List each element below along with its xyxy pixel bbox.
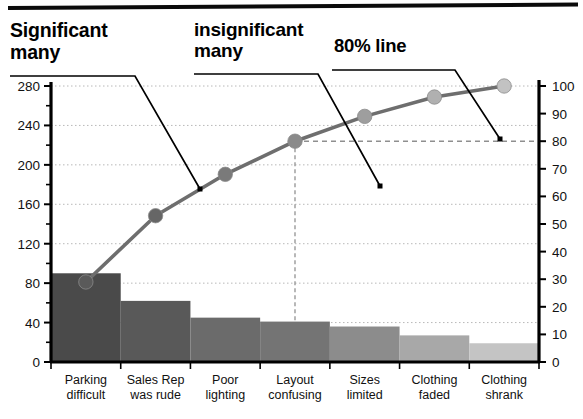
right-axis-tick-label: 40	[552, 245, 567, 260]
right-axis-tick-label: 30	[552, 272, 567, 287]
bar	[190, 318, 260, 362]
data-point-marker	[497, 79, 511, 93]
pareto-chart-figure: Significant many insignificant many 80% …	[0, 0, 583, 419]
bar	[121, 301, 191, 362]
left-axis-tick-labels: 04080120160200240280	[17, 79, 40, 370]
left-axis-tick-label: 160	[17, 197, 40, 212]
right-axis-tick-labels: 0102030405060708090100	[552, 79, 575, 370]
left-axis-tick-label: 120	[17, 237, 40, 252]
category-axis-labels: ParkingdifficultSales Repwas rudePoorlig…	[65, 373, 527, 402]
leader-insignificant-many-endpoint	[378, 184, 383, 189]
left-axis-tick-label: 200	[17, 158, 40, 173]
category-label: Clothing	[481, 373, 527, 387]
left-axis-tick-label: 80	[25, 276, 40, 291]
right-axis-tick-label: 100	[552, 79, 575, 94]
bar	[400, 335, 470, 362]
category-label: Layout	[276, 373, 314, 387]
left-axis-tick-label: 280	[17, 79, 40, 94]
data-point-marker	[288, 134, 302, 148]
category-label: was rude	[129, 388, 181, 402]
data-point-marker	[148, 209, 162, 223]
category-label: Clothing	[411, 373, 457, 387]
leader-significant-many-endpoint	[198, 187, 203, 192]
annotation-leader-lines	[10, 70, 503, 192]
category-label: Poor	[212, 373, 238, 387]
data-point-marker	[427, 90, 441, 104]
right-axis-tick-label: 20	[552, 300, 567, 315]
right-axis-tick-label: 60	[552, 189, 567, 204]
left-axis-tick-label: 240	[17, 118, 40, 133]
category-label: Sales Rep	[127, 373, 185, 387]
right-axis-tick-label: 50	[552, 217, 567, 232]
data-point-marker	[79, 275, 93, 289]
right-axis-tick-label: 10	[552, 327, 567, 342]
right-axis-tick-label: 70	[552, 162, 567, 177]
category-label: faded	[419, 388, 450, 402]
bar	[330, 327, 400, 362]
category-label: confusing	[268, 388, 322, 402]
data-point-marker	[358, 109, 372, 123]
left-axis-tick-label: 40	[25, 316, 40, 331]
category-label: Parking	[65, 373, 107, 387]
right-axis-tick-label: 90	[552, 107, 567, 122]
category-label: limited	[347, 388, 383, 402]
bar	[469, 343, 539, 362]
leader-80-percent	[332, 70, 500, 139]
category-label: lighting	[205, 388, 245, 402]
right-axis-tick-label: 0	[552, 355, 560, 370]
bar	[260, 322, 330, 362]
chart-canvas: 04080120160200240280 0102030405060708090…	[0, 0, 583, 419]
threshold-indicator	[295, 141, 539, 321]
leader-80-percent-endpoint	[498, 137, 503, 142]
category-label: shrank	[485, 388, 523, 402]
category-label: difficult	[67, 388, 106, 402]
category-label: Sizes	[349, 373, 380, 387]
data-point-marker	[218, 167, 232, 181]
left-axis-tick-label: 0	[32, 355, 40, 370]
right-axis-tick-label: 80	[552, 134, 567, 149]
